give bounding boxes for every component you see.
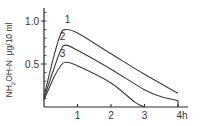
curve-3 [44, 62, 145, 107]
y-tick-label: 0.5 [25, 59, 39, 70]
x-tick-label: 2 [108, 110, 114, 121]
line-chart: 0.51.01234h123 [0, 0, 201, 126]
curve-label-3: 3 [60, 48, 66, 59]
x-tick-label: 4h [176, 110, 187, 121]
curve-label-1: 1 [65, 14, 71, 25]
x-tick-label: 3 [142, 110, 148, 121]
y-tick-label: 1.0 [25, 16, 39, 27]
x-tick-label: 1 [75, 110, 81, 121]
curve-label-2: 2 [60, 31, 66, 42]
